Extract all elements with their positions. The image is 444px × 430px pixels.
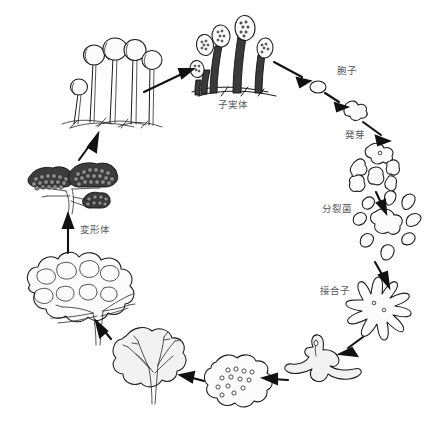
label-germination: 発芽 xyxy=(345,129,365,140)
label-plasmodium: 変形体 xyxy=(80,224,110,235)
label-spore: 胞子 xyxy=(337,65,357,76)
arrow-spore-to-germination xyxy=(325,93,347,111)
stage-myxamoebae xyxy=(349,143,399,191)
stage-zygote: 接合子 xyxy=(320,277,411,340)
lifecycle-diagram: 子実体 胞子 発芽 xyxy=(0,0,444,430)
stage-spore: 胞子 xyxy=(310,65,357,93)
label-swarm-cells: 分裂菌 xyxy=(322,203,352,214)
stage-fan-plasmodium xyxy=(113,328,186,404)
label-zygote: 接合子 xyxy=(320,285,350,296)
substrate-lines xyxy=(62,118,162,128)
arrow-plasmodium-to-fan xyxy=(180,372,204,382)
arrow-fruiting-to-spore xyxy=(274,62,310,87)
arrow-fan-to-mature xyxy=(96,321,111,339)
arrow-stalked-to-fruiting xyxy=(144,69,193,92)
lifecycle-illustration: 子実体 胞子 発芽 xyxy=(0,0,444,430)
arrow-mature-to-sporangia xyxy=(63,214,73,253)
stage-swarm-cells: 分裂菌 xyxy=(322,191,421,260)
flow-arrows xyxy=(63,62,389,384)
stage-fruiting-body: 子実体 xyxy=(189,15,276,110)
stage-sporangia-forming xyxy=(28,163,118,214)
stage-multinucleate-plasmodium xyxy=(204,355,272,407)
stage-mature-plasmodium: 変形体 xyxy=(27,224,135,345)
stage-young-amoeba xyxy=(285,335,361,382)
arrow-germination-to-myxamoebae xyxy=(363,122,389,145)
stage-sporangia-stalked xyxy=(62,38,162,128)
label-fruiting-body: 子実体 xyxy=(218,99,248,110)
arrow-zygote-to-amoeba xyxy=(340,337,363,356)
arrow-sporangia-to-stalked xyxy=(79,134,98,160)
